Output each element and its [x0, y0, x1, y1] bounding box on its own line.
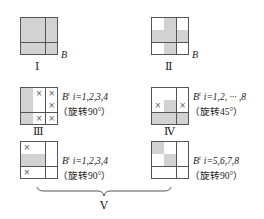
- rotation-text-panel-3: （旋转90°）: [58, 104, 111, 118]
- grid-cell-r0-c1: [164, 142, 176, 154]
- grid-cell-r0-c2: [46, 142, 58, 154]
- grid-cell-r0-c2: [177, 88, 189, 100]
- index-range: i=1,2,3,4: [73, 156, 108, 166]
- grid-cell-r2-c1: [164, 43, 176, 55]
- grid-panel-5a: ××: [20, 141, 58, 179]
- grid-cell-r1-c1: [33, 30, 45, 42]
- cross-mark-icon: ×: [21, 167, 33, 179]
- grid-cell-r1-c2: [177, 30, 189, 42]
- rotation-text-panel-4: （旋转45°）: [190, 104, 243, 118]
- grid-panel-1: [20, 17, 58, 55]
- cross-mark-icon: ×: [152, 100, 164, 112]
- grid-cell-r0-c0: [152, 18, 164, 30]
- grid-cell-r1-c1: [164, 154, 176, 166]
- grid-cell-r2-c2: [46, 167, 58, 179]
- grid-cell-r0-c2: [177, 142, 189, 154]
- grid-cell-r1-c2: [46, 154, 58, 166]
- grid-cell-r0-c1: ×: [33, 88, 45, 100]
- roman-label-4: Ⅳ: [164, 125, 175, 138]
- cross-mark-icon: ×: [46, 100, 58, 112]
- b-label-panel-5a: Bii=1,2,3,4: [62, 155, 108, 166]
- grid-cell-r1-c2: ×: [177, 100, 189, 112]
- grid-cell-r2-c2: [177, 167, 189, 179]
- cross-mark-icon: ×: [46, 113, 58, 125]
- grid-cell-r2-c1: [33, 43, 45, 55]
- grid-cell-r2-c1: [33, 167, 45, 179]
- grid-panel-4: ××: [151, 87, 189, 125]
- b-label-panel-3: Bii=1,2,3,4: [62, 91, 108, 102]
- grid-cell-r0-c0: ×: [21, 142, 33, 154]
- superscript-i: i: [68, 155, 70, 161]
- roman-label-2: Ⅱ: [165, 60, 172, 73]
- rotation-text-panel-5b: （旋转90°）: [190, 168, 243, 182]
- grid-cell-r0-c0: [21, 18, 33, 30]
- grid-cell-r2-c0: [21, 43, 33, 55]
- grid-cell-r1-c2: ×: [46, 100, 58, 112]
- roman-label-3: Ⅲ: [33, 125, 44, 138]
- index-range: i=1,2, ··· ,8: [204, 92, 246, 102]
- grid-cell-r0-c2: ×: [46, 88, 58, 100]
- b-label-panel-1: B: [61, 49, 67, 60]
- b-symbol: B: [61, 49, 67, 60]
- grid-cell-r0-c2: [177, 18, 189, 30]
- grid-cell-r2-c2: [177, 113, 189, 125]
- grid-cell-r1-c2: [46, 30, 58, 42]
- grid-cell-r0-c1: [164, 18, 176, 30]
- superscript-i: i: [199, 155, 201, 161]
- grid-cell-r2-c0: [152, 167, 164, 179]
- grid-panel-2: [151, 17, 189, 55]
- grid-cell-r1-c0: [21, 154, 33, 166]
- grid-cell-r2-c0: ×: [21, 167, 33, 179]
- grid-cell-r0-c0: [152, 142, 164, 154]
- grid-cell-r1-c1: [164, 100, 176, 112]
- b-label-panel-4: Bii=1,2, ··· ,8: [193, 91, 246, 102]
- grid-panel-5b: [151, 141, 189, 179]
- rotation-text-panel-5a: （旋转90°）: [58, 168, 111, 182]
- index-range: i=5,6,7,8: [204, 156, 239, 166]
- cross-mark-icon: ×: [177, 100, 189, 112]
- cross-mark-icon: ×: [33, 88, 45, 100]
- grid-cell-r0-c0: [152, 88, 164, 100]
- grid-cell-r1-c0: [21, 100, 33, 112]
- cross-mark-icon: ×: [46, 88, 58, 100]
- grid-cell-r0-c1: [33, 18, 45, 30]
- grid-cell-r1-c1: [33, 154, 45, 166]
- curly-brace-icon: [36, 186, 172, 198]
- grid-cell-r1-c1: [33, 100, 45, 112]
- b-label-panel-5b: Bii=5,6,7,8: [193, 155, 239, 166]
- superscript-i: i: [68, 91, 70, 97]
- roman-label-1: Ⅰ: [35, 60, 39, 73]
- grid-cell-r2-c0: [152, 43, 164, 55]
- grid-cell-r1-c0: [21, 30, 33, 42]
- b-label-panel-2: B: [192, 49, 198, 60]
- b-symbol: B: [192, 49, 198, 60]
- grid-cell-r2-c1: [164, 167, 176, 179]
- roman-label-5: Ⅴ: [100, 199, 108, 212]
- superscript-i: i: [199, 91, 201, 97]
- cross-mark-icon: ×: [21, 142, 33, 154]
- grid-cell-r2-c2: [177, 43, 189, 55]
- grid-cell-r1-c0: [152, 30, 164, 42]
- grid-cell-r1-c0: [152, 154, 164, 166]
- grid-cell-r2-c1: [164, 113, 176, 125]
- grid-panel-3: ×××××: [20, 87, 58, 125]
- grid-cell-r0-c0: [21, 88, 33, 100]
- grid-cell-r1-c0: ×: [152, 100, 164, 112]
- grid-cell-r2-c0: [21, 113, 33, 125]
- grid-cell-r0-c2: [46, 18, 58, 30]
- cross-mark-icon: ×: [33, 113, 45, 125]
- grid-cell-r2-c0: [152, 113, 164, 125]
- grid-cell-r1-c1: [164, 30, 176, 42]
- index-range: i=1,2,3,4: [73, 92, 108, 102]
- grid-cell-r2-c1: ×: [33, 113, 45, 125]
- grid-cell-r1-c2: [177, 154, 189, 166]
- grid-cell-r2-c2: [46, 43, 58, 55]
- grid-cell-r0-c1: [33, 142, 45, 154]
- grid-cell-r2-c2: ×: [46, 113, 58, 125]
- grid-cell-r0-c1: [164, 88, 176, 100]
